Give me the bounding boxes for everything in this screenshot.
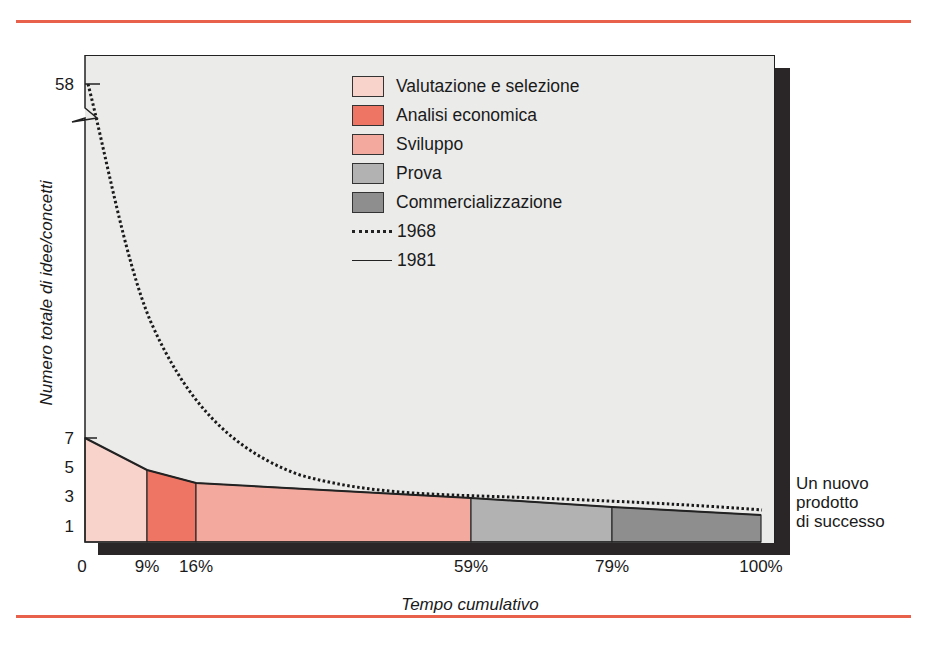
legend-label: Prova — [396, 163, 442, 184]
legend: Valutazione e selezione Analisi economic… — [352, 72, 580, 275]
legend-label: Analisi economica — [396, 105, 537, 126]
y-tick-label-7: 7 — [44, 430, 74, 447]
legend-label: 1981 — [397, 250, 436, 271]
legend-item-1968: 1968 — [352, 217, 580, 246]
swatch-analisi — [352, 105, 384, 126]
area-commercializzazione — [612, 507, 761, 542]
legend-item-analisi: Analisi economica — [352, 101, 580, 130]
y-axis-title: Numero totale di idee/concetti — [37, 168, 57, 418]
legend-item-sviluppo: Sviluppo — [352, 130, 580, 159]
y-tick-label-1: 1 — [44, 518, 74, 535]
x-tick-label-100: 100% — [731, 558, 791, 575]
area-prova — [471, 498, 612, 542]
annotation-success: Un nuovo prodotto di successo — [796, 474, 885, 531]
legend-item-prova: Prova — [352, 159, 580, 188]
dotted-line-icon — [352, 230, 392, 233]
legend-item-commercializzazione: Commercializzazione — [352, 188, 580, 217]
legend-label: Valutazione e selezione — [396, 76, 580, 97]
legend-label: Commercializzazione — [396, 192, 562, 213]
swatch-prova — [352, 163, 384, 184]
legend-item-valutazione: Valutazione e selezione — [352, 72, 580, 101]
swatch-valutazione — [352, 76, 384, 97]
annotation-line-1: Un nuovo — [796, 474, 885, 493]
x-tick-label-79: 79% — [582, 558, 642, 575]
swatch-commercializzazione — [352, 192, 384, 213]
annotation-line-2: prodotto — [796, 493, 885, 512]
x-tick-label-59: 59% — [441, 558, 501, 575]
y-tick-label-58: 58 — [44, 76, 74, 93]
legend-label: 1968 — [397, 221, 436, 242]
y-tick-label-3: 3 — [44, 488, 74, 505]
annotation-line-3: di successo — [796, 512, 885, 531]
x-tick-label-16: 16% — [166, 558, 226, 575]
x-axis-title: Tempo cumulativo — [340, 595, 600, 615]
y-tick-label-5: 5 — [44, 459, 74, 476]
legend-label: Sviluppo — [396, 134, 463, 155]
area-sviluppo — [196, 483, 471, 542]
x-tick-label-0: 0 — [52, 558, 112, 575]
legend-item-1981: 1981 — [352, 246, 580, 275]
solid-line-icon — [352, 260, 392, 261]
swatch-sviluppo — [352, 134, 384, 155]
